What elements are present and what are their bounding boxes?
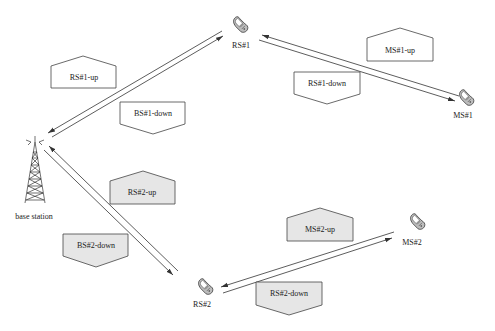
frame-label-ms2-up: MS#2-up — [305, 226, 335, 234]
frame-rs1-up — [51, 56, 116, 88]
relay-network-diagram: RS#1-up BS#1-down MS#1-up RS#1-down RS#2… — [0, 0, 495, 331]
node-label-base-station: base station — [15, 213, 53, 221]
phone-icon-rs1 — [234, 17, 248, 33]
frame-bs1-down — [120, 102, 185, 134]
frame-label-rs2-down: RS#2-down — [270, 290, 308, 298]
phone-icon-ms1 — [460, 90, 474, 106]
phone-icon-ms2 — [411, 214, 425, 230]
node-label-rs2: RS#2 — [193, 301, 211, 309]
frame-label-ms1-up: MS#1-up — [385, 47, 415, 55]
cell-tower-icon — [25, 136, 45, 203]
frame-label-bs2-down: BS#2-down — [77, 242, 115, 250]
phone-icon-rs2 — [199, 279, 213, 295]
frame-ms1-up — [367, 28, 433, 61]
frame-label-rs2-up: RS#2-up — [128, 189, 156, 197]
frame-rs2-down — [256, 282, 322, 315]
frame-label-rs1-up: RS#1-up — [70, 74, 98, 82]
frame-bs2-down — [63, 234, 128, 267]
node-label-ms1: MS#1 — [453, 112, 473, 120]
frame-label-bs1-down: BS#1-down — [134, 110, 172, 118]
frame-rs1-down — [294, 72, 360, 104]
node-label-rs1: RS#1 — [232, 42, 250, 50]
frame-label-rs1-down: RS#1-down — [308, 80, 346, 88]
node-label-ms2: MS#2 — [402, 239, 422, 247]
